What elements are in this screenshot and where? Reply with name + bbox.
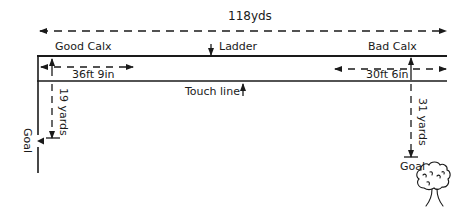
good-calx-label: Good Calx	[55, 41, 111, 52]
right-goal-label: Goal	[400, 161, 425, 172]
right-goal-distance-label: 31 yards	[417, 98, 428, 146]
left-goal-distance-label: 19 yards	[58, 88, 69, 136]
field-diagram	[0, 0, 473, 215]
touch-line-label: Touch line	[185, 86, 240, 97]
ladder-label: Ladder	[219, 41, 257, 52]
bad-calx-label: Bad Calx	[368, 41, 417, 52]
good-calx-width-label: 36ft 9in	[72, 69, 115, 80]
left-goal-arrowhead	[37, 138, 44, 145]
total-length-label: 118yds	[228, 10, 272, 22]
left-goal-label: Goal	[22, 128, 33, 153]
bad-calx-width-label: 30ft 6in	[366, 69, 409, 80]
